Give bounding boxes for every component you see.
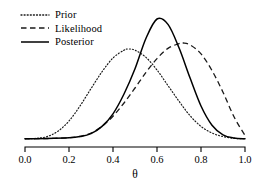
dashed-line-icon: [20, 22, 50, 34]
x-tick-label-0.8: 0.8: [186, 154, 216, 165]
x-tick-label-0.2: 0.2: [54, 154, 84, 165]
x-axis-line: [25, 147, 245, 152]
x-tick-label-0.4: 0.4: [98, 154, 128, 165]
x-axis: [25, 147, 245, 152]
solid-line-icon: [20, 36, 50, 48]
x-tick-label-0.6: 0.6: [142, 154, 172, 165]
bayesian-density-chart: Prior Likelihood Posterior 0.00.20.40.60…: [0, 0, 263, 187]
legend-label-posterior: Posterior: [55, 35, 94, 49]
legend-item-likelihood: Likelihood: [20, 22, 102, 36]
legend-item-prior: Prior: [20, 8, 102, 22]
x-tick-label-1.0: 1.0: [230, 154, 260, 165]
x-axis-title: θ: [115, 168, 155, 180]
legend-label-likelihood: Likelihood: [55, 22, 102, 36]
chart-legend: Prior Likelihood Posterior: [20, 8, 102, 49]
x-tick-label-0.0: 0.0: [10, 154, 40, 165]
legend-item-posterior: Posterior: [20, 35, 102, 49]
legend-label-prior: Prior: [55, 8, 77, 22]
dotted-line-icon: [20, 9, 50, 21]
